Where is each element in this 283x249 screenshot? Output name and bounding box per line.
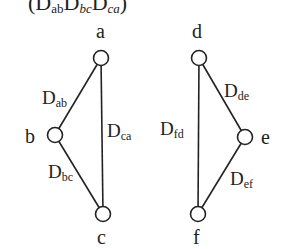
node-label-b: b (25, 125, 35, 147)
edge-label-ef: Def (230, 168, 253, 191)
edge-label-bc: Dbc (48, 161, 73, 184)
edge-label-ca: Dca (107, 120, 132, 143)
edge-fd (198, 58, 199, 214)
edge-ca (101, 58, 103, 214)
node-c (96, 207, 111, 222)
edge-label-ab: Dab (42, 87, 67, 110)
edge-label-fd: Dfd (160, 118, 184, 141)
node-a (94, 51, 109, 66)
node-label-a: a (96, 20, 105, 42)
graph-diagram: (DabDbcDca) a b c d e f Dab Dbc Dca Dde … (0, 0, 283, 249)
edge-label-de: Dde (224, 80, 249, 103)
node-e (238, 130, 253, 145)
node-label-c: c (97, 226, 106, 248)
node-label-f: f (193, 226, 200, 248)
node-label-e: e (261, 126, 270, 148)
node-f (191, 207, 206, 222)
node-b (48, 128, 63, 143)
header-formula: (DabDbcDca) (28, 0, 127, 16)
node-d (192, 51, 207, 66)
node-label-d: d (192, 20, 202, 42)
